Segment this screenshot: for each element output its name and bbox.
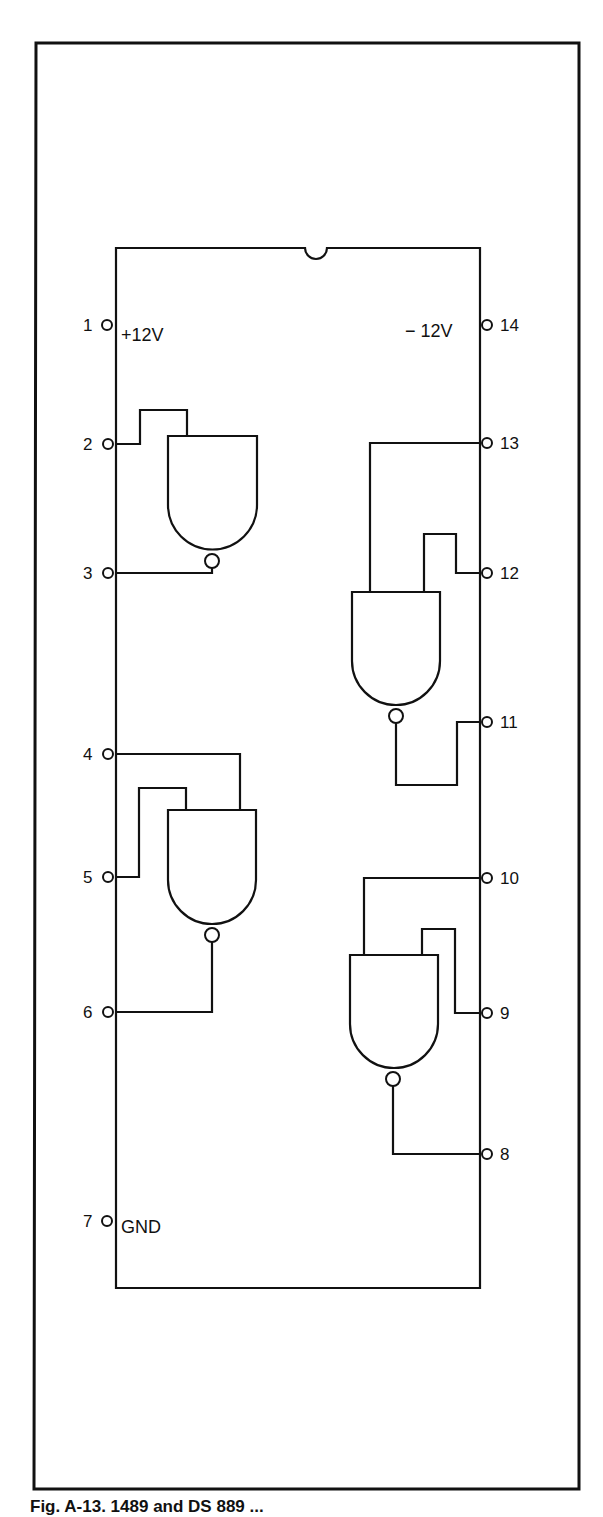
pin-13-terminal <box>482 438 492 448</box>
nand-gate-body <box>350 955 438 1068</box>
wire-pin-9 <box>422 929 480 1013</box>
wire-pin-4 <box>116 754 240 810</box>
vplus-label: +12V <box>121 325 164 345</box>
wire-pin-8 <box>393 1086 480 1154</box>
pin-number-7: 7 <box>83 1212 92 1231</box>
nand-gate-2 <box>116 754 256 1012</box>
pin-number-1: 1 <box>83 316 92 335</box>
nand-gate-3 <box>352 443 480 785</box>
pin-4-terminal <box>103 749 113 759</box>
pin-number-13: 13 <box>500 434 519 453</box>
pin-3-terminal <box>103 568 113 578</box>
pin-number-2: 2 <box>83 435 92 454</box>
wire-pin-2 <box>116 410 187 444</box>
nand-gate-body <box>168 810 256 924</box>
inverter-bubble <box>205 928 219 942</box>
pin-number-4: 4 <box>83 745 92 764</box>
pin-8-terminal <box>482 1149 492 1159</box>
gnd-label: GND <box>121 1217 161 1237</box>
pin-number-8: 8 <box>500 1145 509 1164</box>
nand-gate-1 <box>116 410 257 573</box>
inverter-bubble <box>386 1072 400 1086</box>
pin-number-6: 6 <box>83 1003 92 1022</box>
pin-12-terminal <box>482 568 492 578</box>
wire-pin-6 <box>116 942 212 1012</box>
nand-gate-body <box>352 592 440 705</box>
pin-number-10: 10 <box>500 869 519 888</box>
inverter-bubble <box>389 709 403 723</box>
pin-1-terminal <box>102 320 112 330</box>
pin-number-12: 12 <box>500 564 519 583</box>
pin-number-5: 5 <box>83 868 92 887</box>
pin-10-terminal <box>482 873 492 883</box>
pin-number-11: 11 <box>500 713 518 732</box>
pin-5-terminal <box>103 872 113 882</box>
pin-number-14: 14 <box>500 316 519 335</box>
nand-gate-body <box>168 436 257 550</box>
pin-11-terminal <box>482 717 492 727</box>
pin-2-terminal <box>103 439 113 449</box>
vminus-label: − 12V <box>405 321 453 341</box>
wire-pin-12 <box>424 534 480 592</box>
pin-number-9: 9 <box>500 1004 509 1023</box>
inverter-bubble <box>205 554 219 568</box>
wire-pin-5 <box>116 788 186 877</box>
chip-body <box>116 248 480 1288</box>
pin-number-3: 3 <box>83 564 92 583</box>
figure-caption: Fig. A-13. 1489 and DS 889 ... <box>30 1497 264 1517</box>
wire-pin-3 <box>116 568 212 573</box>
pin-6-terminal <box>103 1007 113 1017</box>
pin-9-terminal <box>482 1008 492 1018</box>
pin-14-terminal <box>482 320 492 330</box>
wire-pin-11 <box>396 722 480 785</box>
pin-7-terminal <box>102 1216 112 1226</box>
nand-gate-4 <box>350 878 480 1154</box>
